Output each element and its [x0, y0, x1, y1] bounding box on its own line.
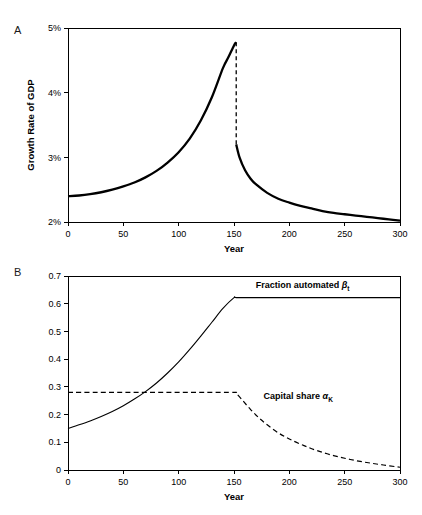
x-tick-label: 150: [226, 229, 241, 239]
x-tick-label: 200: [282, 229, 297, 239]
x-tick-label: 300: [392, 229, 407, 239]
y-tick-label: 0.4: [48, 354, 61, 364]
y-tick-label: 0.5: [48, 327, 61, 337]
panel-a-chart: 2%3%4%5%050100150200250300YearGrowth Rat…: [0, 0, 422, 258]
series-label: Capital share αK: [264, 391, 334, 403]
x-tick-label: 200: [282, 477, 297, 487]
x-axis-title: Year: [224, 243, 244, 254]
x-tick-label: 250: [337, 477, 352, 487]
panel-b-chart: 00.10.20.30.40.50.60.7050100150200250300…: [0, 258, 422, 515]
series-label: Fraction automated βt: [256, 280, 351, 292]
figure-container: A 2%3%4%5%050100150200250300YearGrowth R…: [0, 0, 422, 515]
x-tick-label: 150: [226, 477, 241, 487]
y-axis-title: Growth Rate of GDP: [25, 79, 36, 171]
panel-a-letter: A: [14, 24, 22, 36]
panel-b: B 00.10.20.30.40.50.60.70501001502002503…: [0, 258, 422, 515]
x-axis-title: Year: [224, 491, 244, 502]
series-curve: [236, 144, 400, 220]
y-tick-label: 0.2: [48, 410, 61, 420]
x-tick-label: 50: [118, 477, 128, 487]
y-tick-label: 5%: [48, 23, 61, 33]
x-tick-label: 50: [118, 229, 128, 239]
y-tick-label: 0.1: [48, 437, 61, 447]
y-tick-label: 4%: [48, 88, 61, 98]
panel-b-letter: B: [14, 266, 22, 278]
series-curve: [68, 392, 400, 467]
x-tick-label: 250: [337, 229, 352, 239]
y-tick-label: 0.6: [48, 299, 61, 309]
x-tick-label: 100: [171, 229, 186, 239]
panel-a: A 2%3%4%5%050100150200250300YearGrowth R…: [0, 0, 422, 258]
x-tick-label: 100: [171, 477, 186, 487]
series-curve: [68, 42, 236, 196]
x-tick-label: 0: [65, 477, 70, 487]
y-tick-label: 3%: [48, 153, 61, 163]
x-tick-label: 300: [392, 477, 407, 487]
x-tick-label: 0: [65, 229, 70, 239]
y-tick-label: 0.3: [48, 382, 61, 392]
series-curve: [68, 297, 400, 429]
y-tick-label: 0.7: [48, 271, 61, 281]
y-tick-label: 0: [56, 465, 61, 475]
y-tick-label: 2%: [48, 217, 61, 227]
